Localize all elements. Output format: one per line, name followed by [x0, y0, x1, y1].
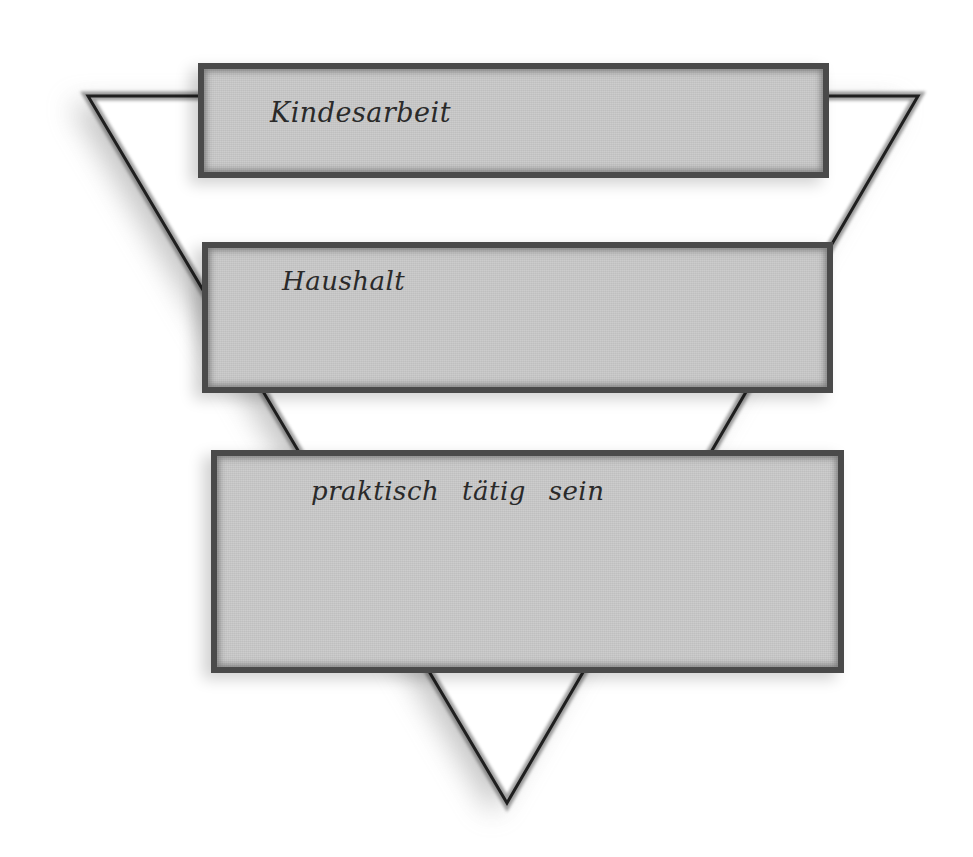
- layer-label-top: Kindesarbeit: [270, 97, 451, 128]
- layer-box-top: Kindesarbeit: [198, 63, 829, 178]
- layer-label-bottom: praktisch tätig sein: [311, 476, 604, 506]
- layer-label-middle: Haushalt: [282, 266, 405, 296]
- diagram-canvas: Kindesarbeit Haushalt praktisch tätig se…: [0, 0, 973, 857]
- layer-box-middle: Haushalt: [202, 242, 833, 393]
- layer-box-bottom: praktisch tätig sein: [211, 450, 844, 673]
